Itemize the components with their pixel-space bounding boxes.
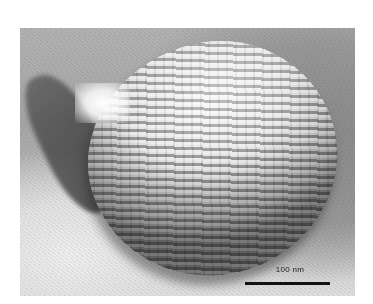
micrograph-frame — [20, 28, 355, 296]
scale-bar-label: 100 nm — [268, 265, 312, 274]
bright-region — [75, 83, 130, 123]
scale-bar — [245, 282, 330, 285]
